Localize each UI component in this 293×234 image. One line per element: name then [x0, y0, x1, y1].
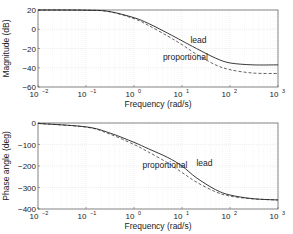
x-tick-label: 10 — [126, 212, 135, 221]
y-tick-label: −200 — [18, 162, 37, 171]
y-tick-label: 0 — [32, 25, 37, 34]
x-tick-label: 10 — [222, 90, 231, 99]
x-tick-exponent: −1 — [90, 210, 96, 216]
phase-plot: 10−210−11001011021030−100−200−300−400lea… — [1, 119, 285, 231]
x-tick-label: 10 — [174, 90, 183, 99]
x-tick-label: 10 — [270, 90, 279, 99]
x-tick-exponent: −2 — [42, 88, 48, 94]
x-tick-exponent: 1 — [186, 210, 189, 216]
proportional-label: proportional — [142, 160, 187, 170]
y-tick-label: −60 — [22, 83, 36, 92]
x-tick-label: 10 — [270, 212, 279, 221]
x-tick-exponent: 1 — [186, 88, 189, 94]
x-axis-label: Frequency (rad/s) — [124, 99, 191, 109]
y-axis-label: Magnitude (dB) — [1, 19, 11, 77]
x-tick-exponent: 0 — [138, 88, 141, 94]
proportional-label: proportional — [163, 52, 208, 62]
lead-curve — [38, 10, 278, 65]
x-tick-exponent: 2 — [234, 88, 237, 94]
lead-label: lead — [196, 158, 212, 168]
magnitude-plot: 10−210−1100101102103200−20−40−60leadprop… — [1, 6, 285, 109]
x-tick-label: 10 — [174, 212, 183, 221]
x-tick-label: 10 — [78, 212, 87, 221]
x-tick-label: 10 — [126, 90, 135, 99]
x-tick-exponent: −1 — [90, 88, 96, 94]
lead-label: lead — [190, 35, 206, 45]
y-tick-label: −100 — [18, 141, 37, 150]
x-tick-exponent: 3 — [282, 210, 285, 216]
y-tick-label: −300 — [18, 184, 37, 193]
y-tick-label: −400 — [18, 205, 37, 214]
y-tick-label: −40 — [22, 64, 36, 73]
y-tick-label: 0 — [32, 119, 37, 128]
x-axis-label: Frequency (rad/s) — [124, 221, 191, 231]
x-tick-exponent: −2 — [42, 210, 48, 216]
bode-plot: 10−210−1100101102103200−20−40−60leadprop… — [0, 0, 293, 234]
x-tick-exponent: 0 — [138, 210, 141, 216]
x-tick-exponent: 2 — [234, 210, 237, 216]
x-tick-label: 10 — [78, 90, 87, 99]
x-tick-label: 10 — [222, 212, 231, 221]
x-tick-exponent: 3 — [282, 88, 285, 94]
y-tick-label: 20 — [27, 6, 36, 15]
y-tick-label: −20 — [22, 45, 36, 54]
y-axis-label: Phase angle (deg) — [1, 131, 11, 201]
